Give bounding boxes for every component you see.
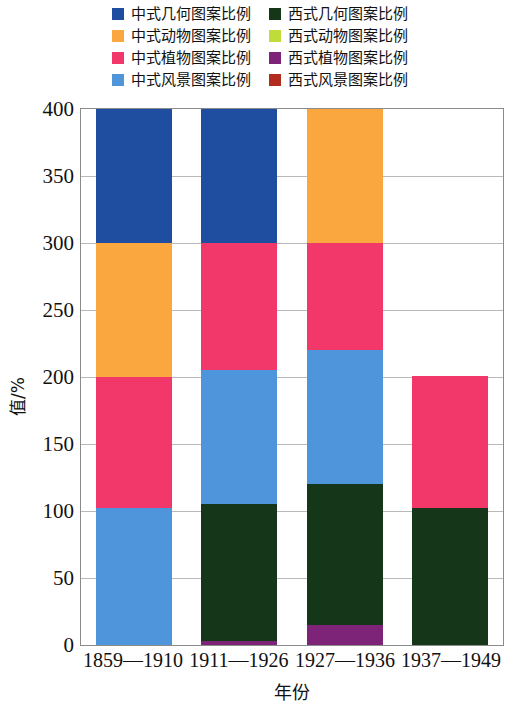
legend-label-cn-geometric: 中式几何图案比例 <box>131 5 251 24</box>
legend-swatch-cn-landscape <box>112 74 124 86</box>
legend-swatch-west-plant <box>269 52 281 64</box>
legend-item-west-geometric: 西式几何图案比例 <box>269 4 408 24</box>
legend-column-western: 西式几何图案比例 西式动物图案比例 西式植物图案比例 西式风景图案比例 <box>269 4 408 96</box>
legend-swatch-cn-animal <box>112 30 124 42</box>
legend-label-west-landscape: 西式风景图案比例 <box>288 71 408 90</box>
legend-item-cn-animal: 中式动物图案比例 <box>112 26 251 46</box>
y-axis-tick-labels: 050100150200250300350400 <box>22 96 74 646</box>
chart-plot-area: 值/% 050100150200250300350400 1859—191019… <box>0 96 520 727</box>
bar-segment[interactable] <box>96 109 172 243</box>
x-axis-tick-labels: 1859—19101911—19261927—19361937—1949 <box>80 648 504 672</box>
bar-slot <box>292 109 398 645</box>
bar-segment[interactable] <box>96 243 172 377</box>
bar-segment[interactable] <box>307 350 383 484</box>
bar-slot <box>398 109 504 645</box>
bar-group <box>81 109 503 645</box>
legend-item-cn-plant: 中式植物图案比例 <box>112 48 251 68</box>
legend-columns: 中式几何图案比例 中式动物图案比例 中式植物图案比例 中式风景图案比例 西式几何… <box>112 4 408 96</box>
x-axis-title: 年份 <box>80 678 504 704</box>
legend-label-cn-plant: 中式植物图案比例 <box>131 49 251 68</box>
legend-label-cn-landscape: 中式风景图案比例 <box>131 71 251 90</box>
legend-column-chinese: 中式几何图案比例 中式动物图案比例 中式植物图案比例 中式风景图案比例 <box>112 4 251 96</box>
legend-item-cn-landscape: 中式风景图案比例 <box>112 70 251 90</box>
legend-label-cn-animal: 中式动物图案比例 <box>131 27 251 46</box>
y-tick-label: 400 <box>43 99 75 120</box>
legend-item-west-animal: 西式动物图案比例 <box>269 26 408 46</box>
bar-segment[interactable] <box>307 109 383 243</box>
legend-swatch-west-landscape <box>269 74 281 86</box>
x-tick-label: 1927—1936 <box>292 648 398 672</box>
legend-swatch-west-animal <box>269 30 281 42</box>
legend-label-west-geometric: 西式几何图案比例 <box>288 5 408 24</box>
stacked-bar[interactable] <box>307 109 383 645</box>
stacked-bar[interactable] <box>96 109 172 645</box>
stacked-bar[interactable] <box>412 376 488 645</box>
y-tick-mark <box>80 645 81 646</box>
y-tick-label: 150 <box>43 434 75 455</box>
legend-swatch-cn-plant <box>112 52 124 64</box>
bar-slot <box>81 109 187 645</box>
bar-segment[interactable] <box>96 508 172 645</box>
bar-segment[interactable] <box>96 377 172 508</box>
legend-item-cn-geometric: 中式几何图案比例 <box>112 4 251 24</box>
bar-segment[interactable] <box>201 109 277 243</box>
bar-segment[interactable] <box>201 370 277 504</box>
legend-swatch-west-geometric <box>269 8 281 20</box>
bar-segment[interactable] <box>412 508 488 645</box>
bar-segment[interactable] <box>201 504 277 641</box>
x-tick-label: 1911—1926 <box>186 648 292 672</box>
y-tick-label: 250 <box>43 300 75 321</box>
y-tick-label: 100 <box>43 501 75 522</box>
legend-label-west-plant: 西式植物图案比例 <box>288 49 408 68</box>
bar-segment[interactable] <box>201 641 277 645</box>
chart-legend: 中式几何图案比例 中式动物图案比例 中式植物图案比例 中式风景图案比例 西式几何… <box>0 4 520 96</box>
bar-segment[interactable] <box>307 484 383 625</box>
bar-segment[interactable] <box>412 376 488 509</box>
bar-segment[interactable] <box>307 625 383 645</box>
legend-label-west-animal: 西式动物图案比例 <box>288 27 408 46</box>
legend-item-west-plant: 西式植物图案比例 <box>269 48 408 68</box>
legend-item-west-landscape: 西式风景图案比例 <box>269 70 408 90</box>
y-tick-label: 300 <box>43 233 75 254</box>
plot-frame <box>80 108 504 646</box>
x-tick-label: 1937—1949 <box>398 648 504 672</box>
y-tick-label: 50 <box>53 568 74 589</box>
y-tick-label: 0 <box>64 635 75 656</box>
legend-swatch-cn-geometric <box>112 8 124 20</box>
x-tick-label: 1859—1910 <box>80 648 186 672</box>
bar-segment[interactable] <box>307 243 383 350</box>
y-tick-label: 350 <box>43 166 75 187</box>
stacked-bar[interactable] <box>201 109 277 645</box>
bar-segment[interactable] <box>201 243 277 370</box>
bar-slot <box>187 109 293 645</box>
y-tick-label: 200 <box>43 367 75 388</box>
